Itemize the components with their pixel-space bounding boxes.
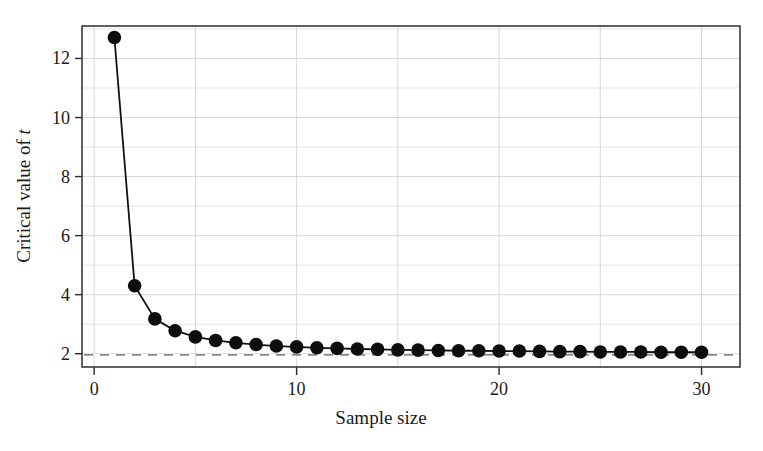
- data-point: [270, 339, 284, 353]
- data-point: [189, 330, 203, 344]
- data-point: [573, 345, 587, 359]
- data-point: [452, 344, 466, 358]
- x-axis-ticks: [94, 367, 701, 375]
- data-point: [310, 341, 324, 355]
- y-tick-label: 4: [61, 285, 70, 305]
- data-point: [229, 336, 243, 350]
- y-tick-label: 8: [61, 167, 70, 187]
- data-point: [695, 345, 709, 359]
- x-axis-tick-labels: 0102030: [90, 379, 711, 399]
- y-tick-label: 6: [61, 226, 70, 246]
- data-point: [553, 345, 567, 359]
- x-tick-label: 10: [288, 379, 306, 399]
- y-axis-title-prefix: Critical value of: [13, 135, 34, 263]
- x-tick-label: 0: [90, 379, 99, 399]
- chart-canvas: 24681012 0102030 Sample size Critical va…: [0, 0, 763, 451]
- data-point: [351, 342, 365, 356]
- data-point: [148, 312, 162, 326]
- y-tick-label: 12: [52, 48, 70, 68]
- x-tick-label: 30: [693, 379, 711, 399]
- data-point: [594, 345, 608, 359]
- x-axis-title: Sample size: [335, 407, 426, 428]
- y-axis-title: Critical value of t: [13, 129, 34, 263]
- y-axis-tick-labels: 24681012: [52, 48, 70, 363]
- data-point: [128, 279, 142, 293]
- data-point: [391, 343, 405, 357]
- data-point: [108, 31, 122, 45]
- data-point: [411, 343, 425, 357]
- data-point: [249, 338, 263, 352]
- data-point: [634, 345, 648, 359]
- data-point: [472, 344, 486, 358]
- data-point: [209, 334, 223, 348]
- data-point: [674, 345, 688, 359]
- y-tick-label: 2: [61, 344, 70, 364]
- y-axis-ticks: [75, 58, 82, 353]
- data-point: [290, 340, 304, 354]
- chart-figure: 24681012 0102030 Sample size Critical va…: [0, 0, 763, 451]
- data-point: [513, 344, 527, 358]
- data-point: [654, 345, 668, 359]
- data-point: [168, 324, 182, 338]
- x-tick-label: 20: [490, 379, 508, 399]
- y-axis-title-variable: t: [13, 129, 34, 135]
- data-point: [330, 342, 344, 356]
- data-point: [533, 345, 547, 359]
- plot-background: [82, 26, 740, 367]
- data-point: [614, 345, 628, 359]
- y-axis-title-group: Critical value of t: [13, 129, 34, 263]
- y-tick-label: 10: [52, 108, 70, 128]
- data-point: [492, 344, 506, 358]
- data-point: [432, 344, 446, 358]
- data-point: [371, 342, 385, 356]
